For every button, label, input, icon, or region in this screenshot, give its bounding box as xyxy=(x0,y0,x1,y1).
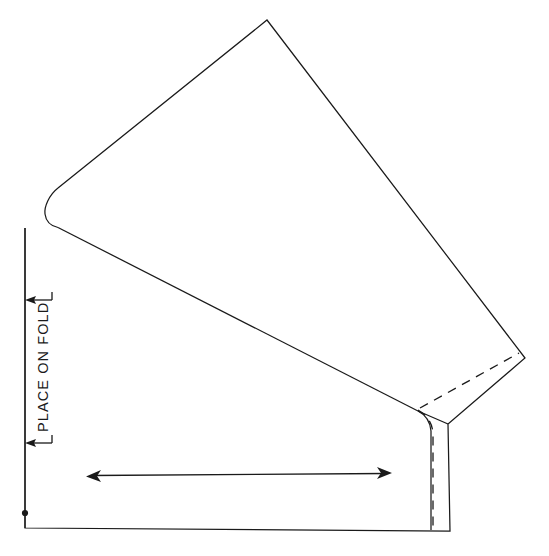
body-outline-path xyxy=(25,20,525,531)
dashed-stitching-line-sleeve xyxy=(420,353,519,408)
pattern-diagram-canvas: PLACE ON FOLD xyxy=(0,0,549,556)
place-on-fold-label: PLACE ON FOLD xyxy=(35,302,51,432)
shoulder-seam-path xyxy=(58,228,418,412)
notch-dot xyxy=(22,510,28,516)
underarm-curve-path xyxy=(418,411,431,530)
grainline-shaft xyxy=(92,474,386,476)
pattern-drawing: PLACE ON FOLD xyxy=(0,0,549,556)
grainline-double-arrow xyxy=(86,467,392,482)
fold-arrow-bottom xyxy=(25,435,52,447)
neckline-curve-path xyxy=(45,188,58,228)
